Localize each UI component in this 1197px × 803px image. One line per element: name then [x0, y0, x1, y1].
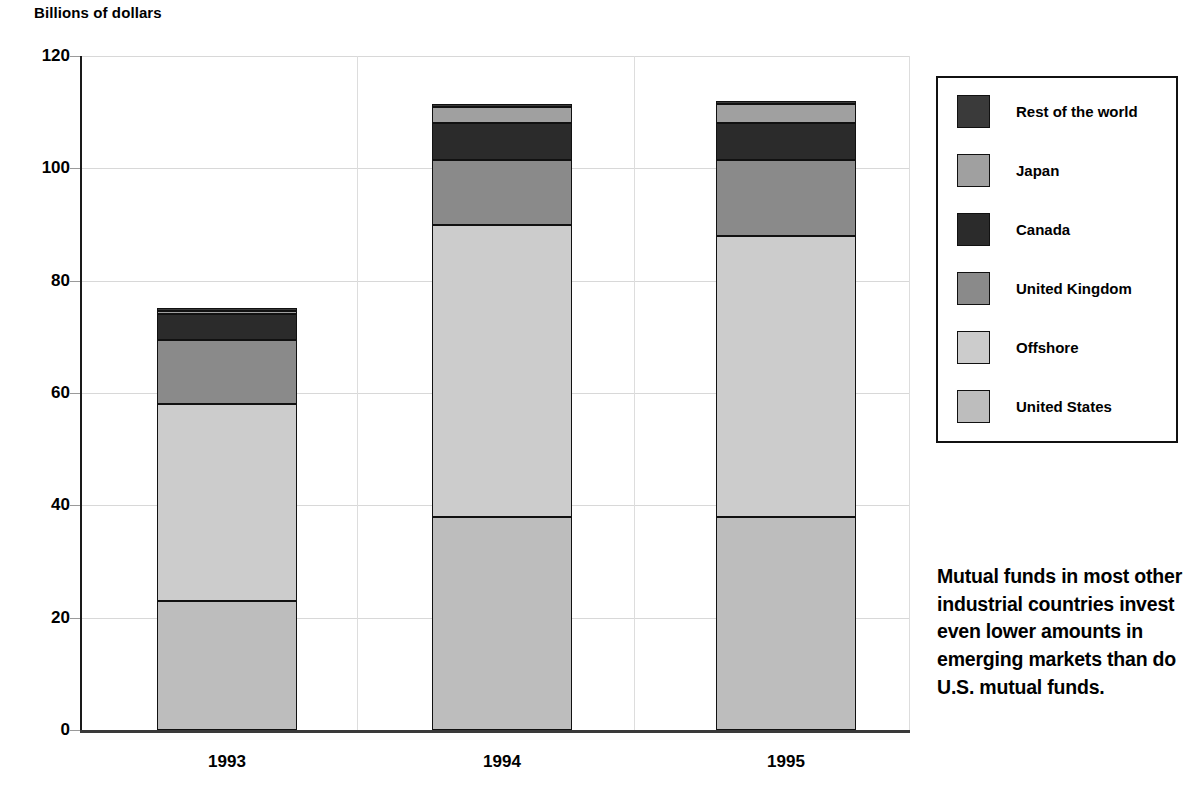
x-axis-tick-label: 1993: [127, 752, 327, 772]
bar-segment-offshore[interactable]: [716, 236, 856, 517]
bar-segment-united-kingdom[interactable]: [716, 160, 856, 236]
legend-item-label: Offshore: [1016, 339, 1079, 356]
legend-swatch-icon: [957, 213, 990, 246]
legend-item[interactable]: United States: [957, 390, 1112, 423]
legend-swatch-icon: [957, 154, 990, 187]
y-axis-tick-label: 80: [8, 271, 70, 291]
bar-segment-united-kingdom[interactable]: [157, 340, 297, 405]
y-axis-tick-label: 60: [8, 383, 70, 403]
legend-swatch-icon: [957, 272, 990, 305]
y-axis-tick-label: 120: [8, 46, 70, 66]
bar-segment-japan[interactable]: [157, 311, 297, 314]
bar-segment-united-states[interactable]: [432, 517, 572, 730]
legend-swatch-icon: [957, 331, 990, 364]
x-axis-tick-label: 1994: [402, 752, 602, 772]
y-axis-tick-label: 20: [8, 608, 70, 628]
bar-segment-canada[interactable]: [432, 123, 572, 160]
bar-segment-united-states[interactable]: [157, 601, 297, 730]
y-axis-tick-label: 100: [8, 158, 70, 178]
gridline: [80, 56, 910, 57]
legend-item[interactable]: Japan: [957, 154, 1059, 187]
chart-legend: Rest of the worldJapanCanadaUnited Kingd…: [936, 76, 1178, 443]
bar-segment-canada[interactable]: [716, 123, 856, 160]
bar-segment-rest-of-the-world[interactable]: [716, 101, 856, 104]
bar-segment-japan[interactable]: [716, 104, 856, 124]
bar-segment-canada[interactable]: [157, 314, 297, 339]
bar-segment-rest-of-the-world[interactable]: [157, 308, 297, 311]
legend-item[interactable]: United Kingdom: [957, 272, 1132, 305]
y-axis-line: [80, 56, 82, 733]
category-separator: [357, 56, 358, 733]
legend-item[interactable]: Offshore: [957, 331, 1079, 364]
legend-item-label: Japan: [1016, 162, 1059, 179]
legend-item[interactable]: Rest of the world: [957, 95, 1138, 128]
category-separator: [634, 56, 635, 733]
chart-page: Billions of dollars 020406080100120 1993…: [0, 0, 1197, 803]
bar-segment-offshore[interactable]: [432, 225, 572, 517]
bar-segment-united-kingdom[interactable]: [432, 160, 572, 225]
y-axis-tick-label: 40: [8, 495, 70, 515]
legend-item-label: Canada: [1016, 221, 1070, 238]
plot-area: [80, 56, 910, 733]
legend-item-label: United States: [1016, 398, 1112, 415]
annotation-text: Mutual funds in most other industrial co…: [937, 563, 1189, 701]
x-axis-tick-label: 1995: [686, 752, 886, 772]
legend-swatch-icon: [957, 390, 990, 423]
bar-segment-united-states[interactable]: [716, 517, 856, 730]
bar-segment-japan[interactable]: [432, 107, 572, 124]
legend-item-label: United Kingdom: [1016, 280, 1132, 297]
bar-segment-offshore[interactable]: [157, 404, 297, 601]
legend-item-label: Rest of the world: [1016, 103, 1138, 120]
y-axis-tick-label: 0: [8, 720, 70, 740]
bar-segment-rest-of-the-world[interactable]: [432, 104, 572, 107]
y-axis-title: Billions of dollars: [34, 4, 162, 21]
legend-swatch-icon: [957, 95, 990, 128]
plot-right-edge: [909, 56, 910, 733]
legend-item[interactable]: Canada: [957, 213, 1070, 246]
x-axis-line: [80, 730, 910, 733]
